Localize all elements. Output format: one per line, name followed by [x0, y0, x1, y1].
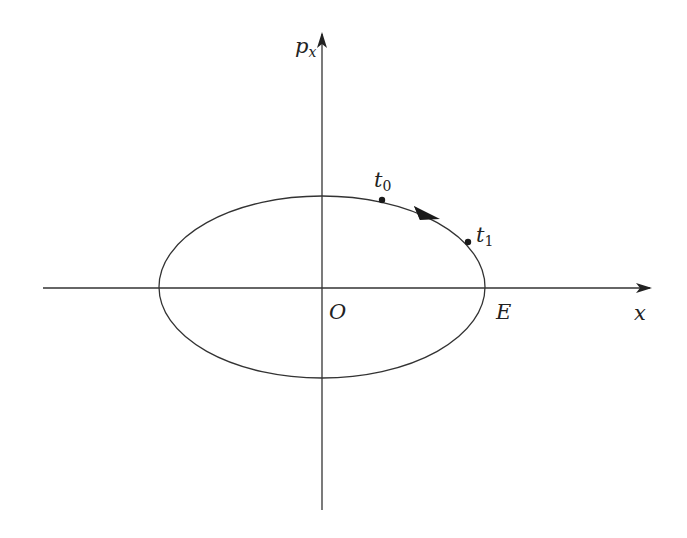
point-t0-label: t0 — [374, 170, 391, 193]
point-t0 — [379, 197, 385, 203]
x-axis-label: x — [634, 303, 646, 324]
intercept-label-e: E — [496, 302, 511, 323]
px-axis-label: px — [295, 36, 316, 59]
point-t1 — [465, 239, 471, 245]
origin-label: O — [329, 302, 346, 323]
phase-diagram — [0, 0, 687, 538]
point-t1-label: t1 — [476, 225, 493, 248]
